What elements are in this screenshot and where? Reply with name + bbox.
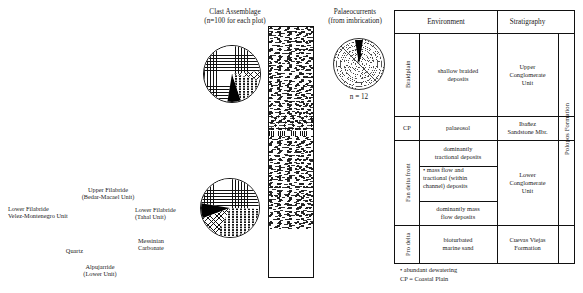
table-environment-massflow: dominantly mass flow deposits [419,201,497,225]
rose-n-label: n = 12 [333,93,385,102]
strat-isb-line2: Sandstone Mbr. [507,128,547,136]
strat-lcu-line1: Lower [519,171,536,179]
log-unit-lower-conglomerate [269,137,313,229]
legend-label-lft-line2: (Tahal Unit) [135,213,205,220]
table-environment-braidplain: shallow braided deposits [419,33,497,116]
table-environment-massflow-tractional: • mass flow and tractional (within chann… [419,166,497,201]
env-mft-line2: tractional (within [423,174,467,182]
table-strat-ibanez-sandstone: Ibañez Sandstone Mbr. [497,116,558,140]
table-footnote: • abundant dewatering CP = Coastal Plain [400,265,550,283]
env-tractional-line2: tractional deposits [435,153,482,161]
env-mft-line1: • mass flow and [423,166,464,174]
strat-ucu-line1: Upper [520,63,536,71]
legend-label-lower-filabride-tahal: Lower Filabride (Tahal Unit) [135,206,205,221]
footnote-dewatering: • abundant dewatering [400,265,550,274]
stratigraphic-log-column [268,26,314,278]
palaeocurrents-title: Palaeocurrents [312,8,398,17]
log-flame-structure-band [269,131,313,136]
table-zone-fan-delta-front: Fan delta front [395,140,419,225]
legend-label-messinian-line2: Carbonate [138,244,198,251]
clast-assemblage-subtitle: (n=100 for each plot) [176,17,294,26]
legend-label-quartz: Quartz [47,247,83,254]
legend-label-upper-filabride: Upper Filabride (Bedar-Macael Unit) [46,186,170,201]
env-pd-line1: bioturbated [443,236,472,244]
clast-pie-chart-upper [203,45,261,103]
clast-assemblage-title: Clast Assemblage [176,8,294,17]
table-environment-tractional: dominantly tractional deposits [419,140,497,166]
table-header-stratigraphy: Stratigraphy [497,11,558,33]
strat-ucu-line2: Conglomerate [509,71,545,79]
strat-lcu-line2: Conglomerate [509,179,545,187]
strat-cvf-line2: Formation [514,244,541,252]
table-strat-cuevas-viejas: Cuevas Viejas Formation [497,225,558,263]
legend-label-lfv-line2: Velez-Montenegro Unit [8,212,88,219]
legend-label-alpujarride-line1: Alpujarride [62,263,138,270]
table-header-environment: Environment [395,11,497,33]
environment-stratigraphy-table: Environment Stratigraphy Braidplain CP F… [394,10,575,264]
table-strat-upper-conglomerate: Upper Conglomerate Unit [497,33,558,116]
table-strat-lower-conglomerate: Lower Conglomerate Unit [497,140,558,225]
log-unit-upper-conglomerate [269,27,313,115]
figure-root: Clast Assemblage (n=100 for each plot) P… [0,0,583,293]
table-formation-polopos: Polopos Formation [558,33,574,225]
footnote-cp: CP = Coastal Plain [400,274,550,283]
log-unit-bioturbated-marine-sand [269,229,313,276]
table-zone-braidplain: Braidplain [395,33,419,116]
palaeocurrents-subtitle: (from imbrication) [312,17,398,26]
env-braidplain-line1: shallow braided [438,67,479,75]
legend-label-lower-filabride-velez: Lower Filabride Velez-Montenegro Unit [8,205,88,220]
palaeocurrents-heading: Palaeocurrents (from imbrication) [312,8,398,25]
legend-label-lfv-line1: Lower Filabride [8,205,88,212]
clast-assemblage-heading: Clast Assemblage (n=100 for each plot) [176,8,294,25]
legend-label-messinian-line1: Messinian [138,237,198,244]
clast-pie-chart-middle [200,178,260,238]
table-zone-cp: CP [395,116,419,140]
legend-label-alpujarride-line2: (Lower Unit) [62,270,138,277]
palaeocurrent-rose-diagram [333,38,385,90]
table-environment-pro-delta: bioturbated marine sand [419,225,497,263]
legend-label-messinian-carbonate: Messinian Carbonate [138,237,198,252]
env-pd-line2: marine sand [442,244,473,252]
legend-label-upper-filabride-line2: (Bedar-Macael Unit) [46,193,170,200]
legend-label-upper-filabride-line1: Upper Filabride [46,186,170,193]
table-zone-pro-delta: Pro delta [395,225,419,263]
env-braidplain-line2: deposits [448,75,469,83]
strat-ucu-line3: Unit [522,79,533,87]
env-mf-line2: flow deposits [441,213,475,221]
legend-label-lft-line1: Lower Filabride [135,206,205,213]
strat-isb-line1: Ibañez [519,120,536,128]
env-mft-line3: channel) deposits [423,182,468,190]
env-mf-line1: dominantly mass [436,205,480,213]
strat-lcu-line3: Unit [522,187,533,195]
strat-cvf-line1: Cuevas Viejas [509,236,545,244]
env-tractional-line1: dominantly [443,145,472,153]
legend-label-alpujarride: Alpujarride (Lower Unit) [62,263,138,278]
table-environment-palaeosol: palaeosol [419,116,497,140]
